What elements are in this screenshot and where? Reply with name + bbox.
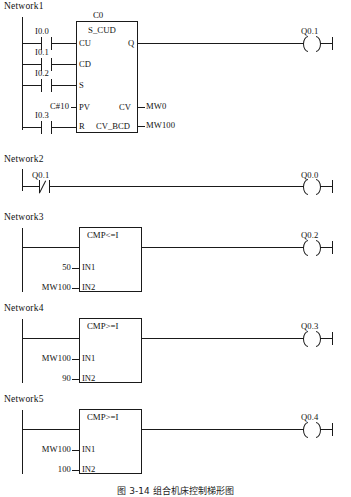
network-label-5: Network5 (4, 394, 44, 404)
coil-label-q0-1: Q0.1 (301, 26, 318, 36)
coil-q0-3[interactable] (304, 331, 320, 345)
left-power-rail-5 (22, 410, 23, 474)
network-label-1: Network1 (4, 1, 44, 11)
pin-cu: CU (79, 38, 91, 48)
wire-seg (138, 107, 145, 108)
coil-q0-0[interactable] (304, 179, 320, 193)
wire-seg (142, 429, 304, 430)
operand-in2-n5: 100 (28, 464, 71, 474)
wire-seg (142, 247, 304, 248)
right-power-rail-4 (332, 332, 333, 345)
pin-in1-n3: IN1 (82, 262, 95, 272)
coil-label-q0-4: Q0.4 (301, 412, 318, 422)
pin-r: R (79, 121, 85, 131)
wire-seg (52, 64, 77, 65)
pin-in1-n4: IN1 (82, 353, 95, 363)
contact-label-i0-0: I0.0 (35, 26, 49, 36)
pin-cv: CV (119, 102, 131, 112)
wire-seg (320, 338, 332, 339)
wire-seg (72, 359, 79, 360)
wire-seg (72, 379, 79, 380)
block-title-s-cud: S_CUD (88, 25, 116, 35)
coil-label-q0-3: Q0.3 (301, 321, 318, 331)
wire-seg (138, 43, 304, 44)
pin-s: S (79, 80, 84, 90)
contact-i0-3[interactable] (41, 121, 52, 134)
wire-seg (22, 85, 41, 86)
operand-pv-c10: C#10 (50, 101, 69, 111)
wire-seg (52, 85, 77, 86)
network-label-3: Network3 (4, 212, 44, 222)
wire-seg (22, 127, 41, 128)
pin-pv: PV (79, 102, 90, 112)
block-title-cmp-ge-2: CMP>=I (87, 412, 118, 422)
operand-in2-n3: MW100 (24, 282, 71, 292)
wire-seg (72, 288, 79, 289)
left-power-rail-2 (22, 169, 23, 191)
contact-label-i0-1: I0.1 (35, 47, 49, 57)
network-label-2: Network2 (4, 154, 44, 164)
contact-label-i0-3: I0.3 (35, 110, 49, 120)
left-power-rail-1 (22, 17, 23, 130)
block-title-cmp-le: CMP<=I (87, 230, 118, 240)
pin-cv-bcd: CV_BCD (96, 121, 130, 131)
network-label-4: Network4 (4, 303, 44, 313)
contact-label-q0-1: Q0.1 (32, 170, 49, 180)
contact-q0-1-nc[interactable] (39, 180, 50, 193)
wire-seg (52, 127, 77, 128)
wire-seg (22, 43, 41, 44)
operand-in1-n5: MW100 (24, 444, 71, 454)
figure-caption: 图 3-14 组合机床控制梯形图 (0, 484, 351, 497)
wire-seg (22, 247, 79, 248)
operand-cv-mw0: MW0 (146, 101, 166, 111)
pin-in2-n4: IN2 (82, 373, 95, 383)
wire-seg (50, 186, 304, 187)
operand-in2-n4: 90 (33, 373, 71, 383)
right-power-rail-2 (332, 180, 333, 193)
right-power-rail-5 (332, 423, 333, 436)
right-power-rail-3 (332, 241, 333, 254)
wire-seg (22, 186, 39, 187)
pin-in1-n5: IN1 (82, 444, 95, 454)
pin-q: Q (128, 38, 134, 48)
left-power-rail-4 (22, 319, 23, 383)
right-power-rail-1 (332, 37, 333, 50)
wire-seg (22, 64, 41, 65)
wire-seg (320, 247, 332, 248)
pin-in2-n5: IN2 (82, 464, 95, 474)
coil-label-q0-2: Q0.2 (301, 230, 318, 240)
operand-in1-n3: 50 (33, 262, 71, 272)
wire-seg (320, 429, 332, 430)
wire-seg (22, 338, 79, 339)
wire-seg (72, 450, 79, 451)
wire-seg (22, 429, 79, 430)
operand-in1-n4: MW100 (24, 353, 71, 363)
coil-q0-1[interactable] (304, 36, 320, 50)
wire-seg (52, 43, 77, 44)
wire-seg (320, 43, 332, 44)
contact-label-i0-2: I0.2 (35, 68, 49, 78)
pin-cd: CD (79, 59, 91, 69)
wire-seg (138, 126, 145, 127)
wire-seg (72, 470, 79, 471)
wire-seg (320, 186, 332, 187)
operand-cvbcd-mw100: MW100 (146, 120, 175, 130)
block-title-cmp-ge-1: CMP>=I (87, 321, 118, 331)
wire-seg (142, 338, 304, 339)
contact-i0-2[interactable] (41, 79, 52, 92)
coil-q0-2[interactable] (304, 240, 320, 254)
coil-q0-4[interactable] (304, 422, 320, 436)
wire-seg (72, 268, 79, 269)
block-instance-c0: C0 (93, 10, 103, 20)
pin-in2-n3: IN2 (82, 282, 95, 292)
